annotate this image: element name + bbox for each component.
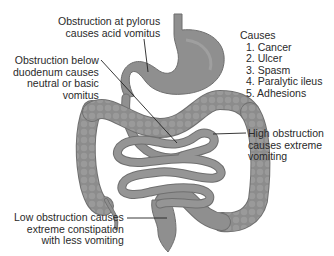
label-high-obstruction: High obstruction causes extreme vomiting xyxy=(248,128,324,163)
cause-item: 2. Ulcer xyxy=(246,53,322,65)
label-line: vomiting xyxy=(248,151,324,163)
cause-item: 4. Paralytic ileus xyxy=(246,76,322,88)
cause-item: 5. Adhesions xyxy=(246,88,322,100)
label-line: Obstruction below xyxy=(13,55,99,67)
rectum xyxy=(152,200,176,252)
causes-list-box: Causes 1. Cancer 2. Ulcer 3. Spasm 4. Pa… xyxy=(240,30,322,99)
diagram-canvas: Obstruction at pylorus causes acid vomit… xyxy=(0,0,334,256)
causes-title: Causes xyxy=(240,30,322,42)
label-line: causes acid vomitus xyxy=(58,28,160,40)
label-line: with less vomiting xyxy=(14,235,124,247)
label-low-obstruction: Low obstruction causes extreme constipat… xyxy=(14,212,124,247)
label-pylorus-obstruction: Obstruction at pylorus causes acid vomit… xyxy=(58,16,160,39)
causes-list: 1. Cancer 2. Ulcer 3. Spasm 4. Paralytic… xyxy=(240,42,322,100)
label-line: neutral or basic xyxy=(13,78,99,90)
leader-line-high xyxy=(213,133,246,134)
label-duodenum-obstruction: Obstruction below duodenum causes neutra… xyxy=(13,55,99,101)
label-line: Low obstruction causes xyxy=(14,212,124,224)
label-line: High obstruction xyxy=(248,128,324,140)
label-line: Obstruction at pylorus xyxy=(58,16,160,28)
label-line: vomitus xyxy=(13,90,99,102)
